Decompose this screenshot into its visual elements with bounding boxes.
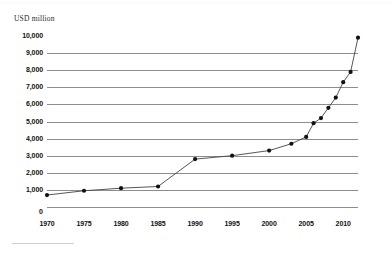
data-point xyxy=(267,148,271,152)
data-point xyxy=(156,184,160,188)
data-point xyxy=(356,36,360,40)
x-axis-tick-label: 2000 xyxy=(262,220,277,227)
y-axis-tick-label: 10,000 xyxy=(22,32,43,39)
gridline xyxy=(47,207,358,208)
series-line-usd-million xyxy=(47,36,358,207)
y-axis-tick-label: 3,000 xyxy=(26,152,43,159)
data-point xyxy=(341,80,345,84)
data-point xyxy=(311,121,315,125)
x-axis-tick-label: 1970 xyxy=(39,220,54,227)
data-point xyxy=(82,189,86,193)
y-axis-tick-label: 2,000 xyxy=(26,169,43,176)
data-point xyxy=(304,135,308,139)
x-axis-tick-label: 1990 xyxy=(188,220,203,227)
x-axis-tick-label: 1980 xyxy=(113,220,128,227)
y-axis-tick-label: 1,000 xyxy=(26,186,43,193)
data-point xyxy=(193,157,197,161)
y-axis-tick-zero: 0 xyxy=(39,208,43,215)
y-axis-tick-label: 4,000 xyxy=(26,135,43,142)
y-axis-tick-label: 8,000 xyxy=(26,66,43,73)
x-axis-tick-label: 1975 xyxy=(76,220,91,227)
x-axis-tick-label: 1995 xyxy=(225,220,240,227)
data-point xyxy=(349,70,353,74)
data-point xyxy=(319,116,323,120)
x-axis-tick-label: 2010 xyxy=(336,220,351,227)
y-axis-tick-label: 6,000 xyxy=(26,100,43,107)
data-point xyxy=(119,186,123,190)
y-axis-tick-label: 9,000 xyxy=(26,49,43,56)
data-point xyxy=(45,193,49,197)
data-point xyxy=(289,142,293,146)
y-axis-tick-label: 5,000 xyxy=(26,118,43,125)
x-axis-tick-label: 1985 xyxy=(150,220,165,227)
x-axis-tick-label: 2005 xyxy=(299,220,314,227)
y-axis-tick-label: 7,000 xyxy=(26,83,43,90)
footnote-divider xyxy=(12,243,74,244)
data-point xyxy=(326,106,330,110)
data-point xyxy=(334,95,338,99)
data-point xyxy=(230,154,234,158)
y-axis-title: USD million xyxy=(14,14,55,23)
top-rule xyxy=(0,2,392,5)
chart-container: USD million 10,0009,0008,0007,0006,0005,… xyxy=(0,0,392,254)
plot-area xyxy=(47,36,358,207)
